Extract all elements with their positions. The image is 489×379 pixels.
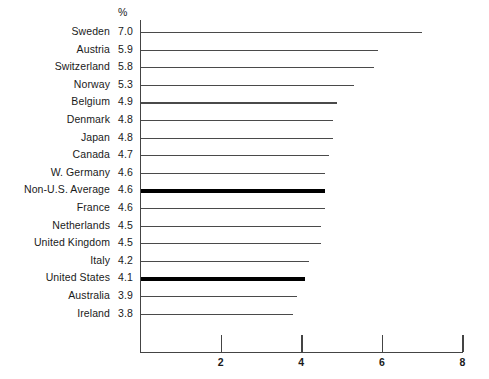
- bar: [140, 296, 297, 297]
- category-label: Denmark: [67, 114, 110, 125]
- bar: [140, 120, 333, 121]
- category-value: 4.5: [118, 220, 133, 231]
- bar: [140, 173, 325, 174]
- category-label: France: [77, 202, 110, 213]
- category-value: 5.9: [118, 44, 133, 55]
- category-label: Netherlands: [52, 220, 110, 231]
- category-value: 3.9: [118, 290, 133, 301]
- category-value: 4.9: [118, 96, 133, 107]
- y-axis-line: [140, 20, 141, 353]
- bar: [140, 67, 374, 68]
- category-value: 4.7: [118, 149, 133, 160]
- category-value: 4.6: [118, 184, 133, 195]
- percent-column-header: %: [118, 6, 128, 18]
- category-label: Switzerland: [55, 61, 110, 72]
- category-label: Sweden: [71, 26, 110, 37]
- x-tick-label: 6: [379, 356, 385, 368]
- category-label: United Kingdom: [34, 237, 110, 248]
- category-label: Ireland: [77, 308, 110, 319]
- bar: [140, 50, 378, 51]
- category-label: Austria: [77, 44, 110, 55]
- bar: [140, 102, 337, 103]
- category-value: 4.5: [118, 237, 133, 248]
- category-value: 4.2: [118, 255, 133, 266]
- category-value: 4.8: [118, 132, 133, 143]
- horizontal-bar-chart: % Sweden7.0Austria5.9Switzerland5.8Norwa…: [0, 0, 489, 379]
- bar: [140, 261, 309, 262]
- bar: [140, 138, 333, 139]
- x-tick-label: 8: [459, 356, 465, 368]
- category-label: United States: [46, 272, 110, 283]
- category-value: 4.6: [118, 202, 133, 213]
- category-value: 4.1: [118, 272, 133, 283]
- x-tick: [462, 335, 463, 352]
- category-label: W. Germany: [51, 167, 110, 178]
- bar: [140, 155, 329, 156]
- category-value: 3.8: [118, 308, 133, 319]
- x-tick-label: 2: [218, 356, 224, 368]
- x-tick: [221, 335, 222, 352]
- bar: [140, 314, 293, 315]
- category-label: Japan: [81, 132, 110, 143]
- x-tick: [301, 335, 302, 352]
- category-label: Canada: [73, 149, 110, 160]
- category-value: 5.8: [118, 61, 133, 72]
- bar: [140, 226, 321, 227]
- category-label: Non-U.S. Average: [24, 184, 110, 195]
- bar: [140, 243, 321, 244]
- category-value: 5.3: [118, 79, 133, 90]
- x-tick-label: 4: [298, 356, 304, 368]
- category-value: 4.8: [118, 114, 133, 125]
- bar-highlighted: [140, 189, 325, 193]
- bar: [140, 208, 325, 209]
- bar: [140, 32, 422, 33]
- category-value: 4.6: [118, 167, 133, 178]
- category-label: Norway: [74, 79, 110, 90]
- category-label: Italy: [90, 255, 110, 266]
- category-label: Australia: [68, 290, 110, 301]
- bar: [140, 85, 354, 86]
- category-label: Belgium: [71, 96, 110, 107]
- category-value: 7.0: [118, 26, 133, 37]
- bar-highlighted: [140, 277, 305, 281]
- x-tick: [382, 335, 383, 352]
